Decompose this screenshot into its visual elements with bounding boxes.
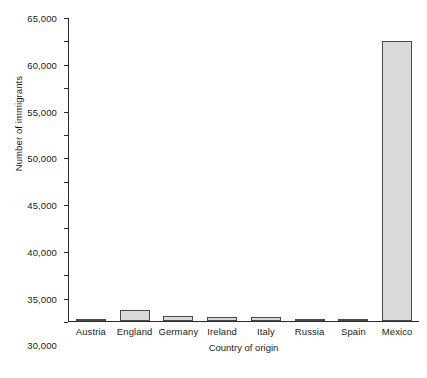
y-tick: 0: [64, 322, 68, 323]
x-axis-tick-labels: AustriaEnglandGermanyIrelandItalyRussiaS…: [69, 326, 419, 337]
y-tick-label: 50,000: [27, 153, 57, 164]
bar-slot: [288, 18, 332, 321]
bar-slot: [332, 18, 376, 321]
y-tick: 15,000: [64, 252, 68, 253]
y-tick-label: 40,000: [27, 246, 57, 257]
x-tick-label: Russia: [288, 326, 332, 337]
y-tick: 45,000: [64, 112, 68, 113]
x-axis-title: Country of origin: [68, 342, 419, 353]
y-tick: 5,000: [64, 299, 68, 300]
bar-austria: [76, 319, 106, 321]
y-tick: 25,000: [64, 205, 68, 206]
bar-slot: [200, 18, 244, 321]
y-tick: 35,000: [64, 158, 68, 159]
bar-slot: [113, 18, 157, 321]
y-tick: 50,000: [64, 88, 68, 89]
bar-mexico: [382, 41, 412, 321]
y-tick: 10,000: [64, 275, 68, 276]
bar-russia: [295, 319, 325, 321]
bar-england: [120, 310, 150, 321]
y-tick: 65,000: [64, 18, 68, 19]
bar-slot: [69, 18, 113, 321]
y-axis-title: Number of immigrants: [13, 54, 24, 194]
y-tick-label: 60,000: [27, 59, 57, 70]
y-tick: 40,000: [64, 135, 68, 136]
y-tick: 55,000: [64, 65, 68, 66]
x-axis-line: [68, 321, 419, 322]
bar-spain: [338, 319, 368, 321]
y-tick: 60,000: [64, 41, 68, 42]
y-tick: 20,000: [64, 228, 68, 229]
plot-area: 05,00010,00015,00020,00025,00030,00035,0…: [68, 18, 419, 322]
x-tick-label: Italy: [244, 326, 288, 337]
x-tick-label: Austria: [69, 326, 113, 337]
y-tick-label: 35,000: [27, 293, 57, 304]
bar-ireland: [207, 317, 237, 321]
y-tick-label: 65,000: [27, 13, 57, 24]
bar-germany: [163, 316, 193, 321]
x-tick-label: Spain: [332, 326, 376, 337]
bar-series: [69, 18, 419, 321]
x-tick-label: England: [113, 326, 157, 337]
bar-slot: [157, 18, 201, 321]
y-tick-label: 45,000: [27, 200, 57, 211]
bar-chart: Number of immigrants 05,00010,00015,0002…: [0, 0, 427, 378]
x-tick-label: Germany: [157, 326, 201, 337]
bar-italy: [251, 317, 281, 321]
y-tick-label: 30,000: [27, 340, 57, 351]
y-tick: 30,000: [64, 182, 68, 183]
y-tick-label: 55,000: [27, 106, 57, 117]
x-tick-label: Mexico: [375, 326, 419, 337]
bar-slot: [375, 18, 419, 321]
bar-slot: [244, 18, 288, 321]
x-tick-label: Ireland: [200, 326, 244, 337]
